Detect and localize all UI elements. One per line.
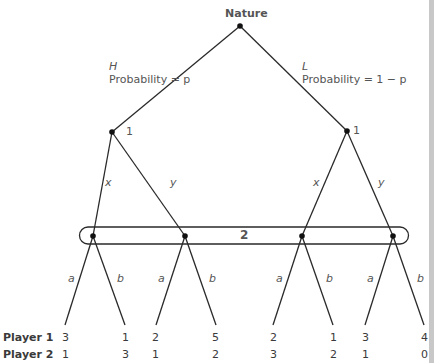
prob-l-label: Probability = 1 − p xyxy=(302,73,407,86)
payoff-p2: 1 xyxy=(362,348,369,361)
payoff-p2: 0 xyxy=(421,348,428,361)
player2-node xyxy=(182,233,188,239)
player1-row-label: Player 1 xyxy=(3,331,53,344)
move-b: b xyxy=(326,272,333,285)
move-y-left: y xyxy=(170,176,177,189)
player2-node xyxy=(90,233,96,239)
payoff-p2: 2 xyxy=(212,348,219,361)
move-a: a xyxy=(68,272,75,285)
payoff-p1: 5 xyxy=(212,331,219,344)
player1-left-label: 1 xyxy=(126,125,133,138)
move-l-label: L xyxy=(302,60,308,73)
payoff-p2: 3 xyxy=(270,348,277,361)
move-x-left: x xyxy=(105,176,112,189)
move-a: a xyxy=(276,272,283,285)
payoff-p1: 1 xyxy=(330,331,337,344)
prob-h-label: Probability = p xyxy=(109,73,190,86)
player1-right-label: 1 xyxy=(353,124,360,137)
move-y-right: y xyxy=(378,176,385,189)
player1-node-right xyxy=(344,128,350,134)
nature-node xyxy=(237,23,243,29)
payoff-p2: 3 xyxy=(122,348,129,361)
payoff-p1: 1 xyxy=(122,331,129,344)
game-tree xyxy=(0,0,434,363)
payoff-p2: 1 xyxy=(152,348,159,361)
player2-node xyxy=(299,233,305,239)
payoff-p1: 3 xyxy=(362,331,369,344)
payoff-p1: 2 xyxy=(152,331,159,344)
move-a: a xyxy=(367,272,374,285)
info-set-label: 2 xyxy=(240,228,248,242)
move-b: b xyxy=(209,272,216,285)
payoff-p2: 2 xyxy=(330,348,337,361)
move-b: b xyxy=(417,272,424,285)
player1-node-left xyxy=(109,129,115,135)
payoff-p1: 2 xyxy=(270,331,277,344)
player2-node xyxy=(390,233,396,239)
payoff-p1: 3 xyxy=(62,331,69,344)
nature-label: Nature xyxy=(225,7,268,20)
move-a: a xyxy=(158,272,165,285)
move-b: b xyxy=(117,272,124,285)
payoff-p2: 1 xyxy=(62,348,69,361)
payoff-p1: 4 xyxy=(421,331,428,344)
player2-row-label: Player 2 xyxy=(3,348,53,361)
scrollbar[interactable] xyxy=(429,0,434,363)
move-x-right: x xyxy=(313,176,320,189)
move-h-label: H xyxy=(109,60,117,73)
